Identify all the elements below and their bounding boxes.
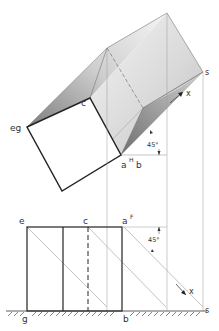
- shadow-construction-drawing: eg c a H b s x 45° e c a F g b s x 45°: [0, 0, 219, 331]
- label-g: g: [22, 314, 28, 324]
- label-eg: eg: [10, 123, 21, 133]
- label-a-sup-H: H: [129, 156, 134, 163]
- label-s-top: s: [205, 68, 209, 77]
- label-a-top: a: [121, 160, 127, 170]
- label-s-front: s: [205, 306, 209, 315]
- label-angle-front: 45°: [148, 236, 160, 244]
- label-x-top: x: [186, 89, 191, 98]
- label-x-front: x: [189, 287, 194, 296]
- label-a-front: a: [122, 216, 128, 226]
- top-view-shadow: [27, 13, 203, 191]
- label-c-front: c: [83, 216, 88, 226]
- label-b-top: b: [136, 160, 142, 170]
- label-angle-top: 45°: [147, 141, 159, 149]
- label-a-sup-F: F: [130, 213, 134, 220]
- front-view: [27, 227, 203, 311]
- ground-line: [6, 311, 207, 316]
- label-e: e: [19, 216, 25, 226]
- prism-front-rect: [27, 227, 122, 311]
- label-c-top: c: [81, 98, 86, 108]
- label-b-front: b: [123, 314, 129, 324]
